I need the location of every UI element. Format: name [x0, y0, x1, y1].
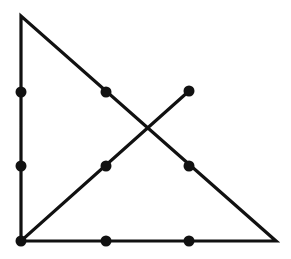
dot	[184, 236, 195, 247]
dot	[184, 86, 195, 97]
dot	[16, 236, 27, 247]
dot	[16, 87, 27, 98]
dot	[101, 236, 112, 247]
dot	[184, 161, 195, 172]
dot	[101, 87, 112, 98]
dot	[16, 161, 27, 172]
solution-lines	[21, 16, 276, 241]
nine-dot-diagram	[0, 0, 291, 259]
dot	[101, 161, 112, 172]
solution-path	[21, 16, 276, 241]
